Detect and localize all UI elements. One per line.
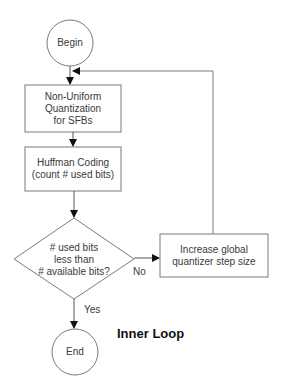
- no-edge-label: No: [133, 266, 146, 277]
- huffman-label: Huffman Coding (count # used bits): [25, 157, 121, 181]
- begin-text: Begin: [57, 37, 83, 48]
- quantization-line3: for SFBs: [25, 115, 121, 127]
- increase-line2: quantizer step size: [160, 256, 268, 268]
- quantization-line2: Quantization: [25, 103, 121, 115]
- decision-label: # used bits less than # available bits?: [24, 242, 124, 278]
- quantization-label: Non-Uniform Quantization for SFBs: [25, 91, 121, 127]
- decision-line1: # used bits: [24, 242, 124, 254]
- increase-label: Increase global quantizer step size: [160, 244, 268, 268]
- decision-line3: # available bits?: [24, 266, 124, 278]
- end-label: End: [52, 346, 98, 358]
- decision-line2: less than: [24, 254, 124, 266]
- quantization-line1: Non-Uniform: [25, 91, 121, 103]
- increase-line1: Increase global: [160, 244, 268, 256]
- end-text: End: [66, 346, 84, 357]
- yes-edge-label: Yes: [84, 304, 100, 315]
- begin-label: Begin: [47, 37, 93, 49]
- diagram-title: Inner Loop: [117, 326, 184, 341]
- huffman-line2: (count # used bits): [25, 169, 121, 181]
- huffman-line1: Huffman Coding: [25, 157, 121, 169]
